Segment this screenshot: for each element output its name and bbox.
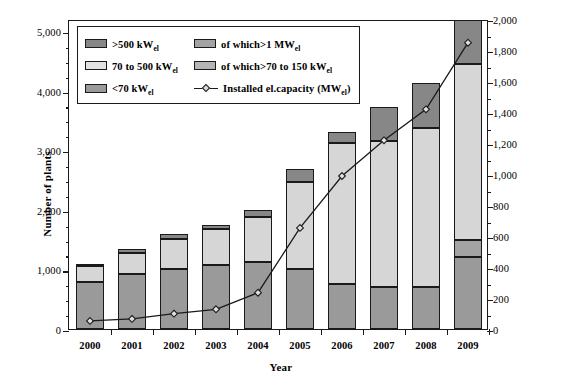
y-axis-left-tick-label: 1,000 [3, 266, 61, 277]
y-axis-right-minor-tick [487, 254, 491, 255]
y-axis-right-tick-label: 600 [493, 233, 553, 244]
legend-label-mid-sub: el [172, 66, 178, 75]
bar-segment-70-to-500 [160, 239, 188, 269]
bar-segment-below70 [202, 265, 230, 329]
bar-segment-70-to-500 [286, 182, 314, 268]
medium-light-gray-swatch-icon [194, 61, 216, 70]
legend-item-line[interactable]: Installed el.capacity (MWel) [194, 76, 351, 98]
x-axis-tick-label: 2007 [361, 340, 407, 351]
legend-spacer [178, 76, 194, 98]
y-axis-right-tick-label: 800 [493, 202, 553, 213]
y-axis-right-tick-label: 1,200 [493, 140, 553, 151]
y-axis-right-tick-label: 200 [493, 295, 553, 306]
legend-label-line-unit-close: ) [347, 83, 351, 94]
bar-group[interactable] [370, 21, 398, 329]
x-axis-tick [195, 329, 196, 335]
legend-label-of-which-70-150: of which>70 to 150 kW [221, 61, 327, 72]
legend-item-above500[interactable]: >500 kWel [85, 32, 178, 54]
light-gray-swatch-icon [85, 61, 107, 70]
y-axis-right-tick-label: 1,400 [493, 109, 553, 120]
legend-row: 70 to 500 kWel of which>70 to 150 kWel [85, 54, 351, 76]
y-axis-left-tick-label: 2,000 [3, 207, 61, 218]
x-axis-tick [153, 329, 154, 335]
y-axis-left-tick-label: 3,000 [3, 147, 61, 158]
bar-segment-above500 [286, 169, 314, 182]
x-axis-tick-label: 2001 [109, 340, 155, 351]
bar-segment-above500 [202, 225, 230, 230]
y-axis-right-minor-tick [487, 192, 491, 193]
legend-item-of-which-70-150[interactable]: of which>70 to 150 kWel [194, 54, 351, 76]
y-axis-right-minor-tick [487, 99, 491, 100]
legend-row: <70 kWel Installed el.capacity (MWel) [85, 76, 351, 98]
bar-segment-below70 [118, 274, 146, 329]
y-axis-left-title-text: Number of plants [41, 151, 53, 237]
bar-group[interactable] [454, 21, 482, 329]
y-axis-right-tick-label: 400 [493, 264, 553, 275]
x-axis-tick-label: 2005 [277, 340, 323, 351]
y-axis-right-minor-tick [487, 316, 491, 317]
bar-segment-below70 [160, 269, 188, 329]
x-axis-tick-label: 2008 [403, 340, 449, 351]
legend-label-of-which-1mw-sub: el [295, 44, 301, 53]
bar-segment-70-to-500 [370, 141, 398, 287]
dark-gray-swatch-icon [85, 39, 107, 48]
x-axis-tick [237, 329, 238, 335]
y-axis-right-minor-tick [487, 68, 491, 69]
y-axis-right-minor-tick [487, 285, 491, 286]
y-axis-right-tick-label: 2,000 [493, 16, 553, 26]
legend-label-below70-sub: el [148, 88, 154, 97]
bar-segment-of-which-70-150 [454, 240, 482, 258]
legend-row: >500 kWel of which>1 MWel [85, 32, 351, 54]
bar-segment-below70 [76, 282, 104, 329]
y-axis-left-tick-label: 0 [3, 326, 61, 337]
legend-item-below70[interactable]: <70 kWel [85, 76, 178, 98]
medium-gray-swatch-icon [194, 39, 216, 48]
bar-segment-above500 [328, 132, 356, 143]
bar-segment-70-to-500 [202, 229, 230, 265]
x-axis-tick [363, 329, 364, 335]
x-axis-tick [405, 329, 406, 335]
bar-segment-below70 [370, 287, 398, 329]
bar-segment-above500 [160, 234, 188, 239]
x-axis-tick-label: 2000 [67, 340, 113, 351]
y-axis-left-tick-label: 5,000 [3, 28, 61, 39]
bar-segment-below70 [244, 262, 272, 329]
legend-label-below70: <70 kW [112, 83, 148, 94]
legend-item-mid[interactable]: 70 to 500 kWel [85, 54, 178, 76]
y-axis-left-tick-label: 4,000 [3, 87, 61, 98]
legend-item-of-which-1mw[interactable]: of which>1 MWel [194, 32, 351, 54]
y-axis-right-tick-label: 0 [493, 326, 553, 337]
legend-label-line-unit-open: (MW [317, 83, 341, 94]
x-axis-tick [279, 329, 280, 335]
chart-container: Number of plants Installed electrical ca… [0, 0, 562, 387]
medium-gray-swatch-icon [85, 84, 107, 93]
bar-segment-70-to-500 [244, 217, 272, 262]
y-axis-right-minor-tick [487, 130, 491, 131]
legend-label-line: Installed el.capacity [223, 83, 314, 94]
line-diamond-marker-icon [194, 84, 218, 93]
x-axis-title: Year [0, 361, 562, 373]
y-axis-right-minor-tick [487, 37, 491, 38]
y-axis-left-tick [63, 331, 69, 332]
bar-segment-below70 [328, 284, 356, 329]
y-axis-right-tick-label: 1,600 [493, 78, 553, 89]
bar-group[interactable] [412, 21, 440, 329]
plot-area: 01,0002,0003,0004,0005,000 0200400600800… [68, 20, 488, 330]
bar-segment-below70 [454, 257, 482, 329]
bar-segment-70-to-500 [412, 128, 440, 288]
x-axis-tick [447, 329, 448, 335]
legend-spacer [178, 54, 194, 76]
legend-label-of-which-70-150-sub: el [327, 66, 333, 75]
y-axis-left-title: Number of plants [41, 151, 53, 237]
x-axis-tick [489, 329, 490, 335]
bar-segment-below70 [412, 287, 440, 329]
bar-segment-above500 [76, 264, 104, 266]
x-axis-tick-label: 2006 [319, 340, 365, 351]
x-axis-tick-label: 2002 [151, 340, 197, 351]
x-axis-tick [321, 329, 322, 335]
bar-segment-70-to-500 [118, 253, 146, 274]
bar-segment-above500 [412, 83, 440, 127]
chart-legend: >500 kWel of which>1 MWel 70 to 500 kWel… [77, 26, 360, 104]
y-axis-right-minor-tick [487, 223, 491, 224]
x-axis-tick-label: 2003 [193, 340, 239, 351]
